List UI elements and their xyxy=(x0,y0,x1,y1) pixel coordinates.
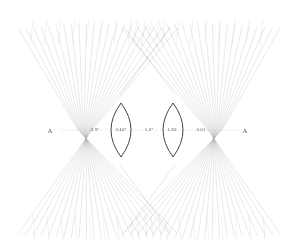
left-lens-label-label: 3.40° xyxy=(116,127,127,132)
right-waist-label-label: 3.01 xyxy=(197,127,206,132)
left-waist-label-label: 2.5° xyxy=(91,127,99,132)
left-A-label: A xyxy=(48,127,52,134)
center-label-label: 1.0° xyxy=(145,127,153,132)
ray-diagram xyxy=(0,0,301,251)
right-lens-label-label: 1.50 xyxy=(168,127,177,132)
right-A-label: A xyxy=(243,127,247,134)
